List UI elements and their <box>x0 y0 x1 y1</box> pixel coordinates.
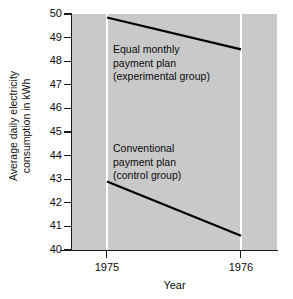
y-tick-45 <box>64 131 72 132</box>
plot-area: Equal monthly payment plan (experimental… <box>72 14 277 250</box>
x-tick-label-1975: 1975 <box>84 261 130 273</box>
x-axis-line <box>60 250 278 251</box>
y-tick-label-44: 44 <box>36 150 62 161</box>
y-tick-label-45: 45 <box>36 126 62 137</box>
y-tick-label-42: 42 <box>36 197 62 208</box>
y-tick-label-43: 43 <box>36 173 62 184</box>
y-tick-label-46: 46 <box>36 102 62 113</box>
y-axis-title-line-2: consumption in kWh <box>20 71 33 181</box>
y-tick-43 <box>64 179 72 180</box>
y-axis-title-line-1: Average daily electricity <box>7 71 20 181</box>
y-tick-label-41: 41 <box>36 220 62 231</box>
y-tick-label-49: 49 <box>36 32 62 43</box>
y-tick-label-40: 40 <box>36 244 62 255</box>
y-tick-label-48: 48 <box>36 55 62 66</box>
x-tick-1975 <box>106 251 107 258</box>
x-tick-1976 <box>240 251 241 258</box>
y-axis-title: Average daily electricity consumption in… <box>0 0 40 252</box>
line-control-group <box>107 182 241 236</box>
y-tick-label-50: 50 <box>36 8 62 19</box>
x-axis-title: Year <box>72 279 277 291</box>
annotation-control-group: Conventional payment plan (control group… <box>113 142 181 183</box>
y-tick-48 <box>64 61 72 62</box>
y-tick-41 <box>64 226 72 227</box>
annotation-control-line-3: (control group) <box>113 169 181 183</box>
y-tick-47 <box>64 84 72 85</box>
y-tick-46 <box>64 108 72 109</box>
x-tick-label-1976: 1976 <box>218 261 264 273</box>
annotation-experimental-line-1: Equal monthly <box>113 43 210 57</box>
y-tick-44 <box>64 155 72 156</box>
annotation-experimental-line-2: payment plan <box>113 57 210 71</box>
y-tick-50 <box>64 13 72 14</box>
y-tick-40 <box>64 249 72 250</box>
y-tick-42 <box>64 202 72 203</box>
annotation-control-line-2: payment plan <box>113 156 181 170</box>
annotation-experimental-line-3: (experimental group) <box>113 70 210 84</box>
y-tick-49 <box>64 37 72 38</box>
annotation-control-line-1: Conventional <box>113 142 181 156</box>
annotation-experimental-group: Equal monthly payment plan (experimental… <box>113 43 210 84</box>
chart-figure: Average daily electricity consumption in… <box>0 0 293 299</box>
y-tick-label-47: 47 <box>36 79 62 90</box>
